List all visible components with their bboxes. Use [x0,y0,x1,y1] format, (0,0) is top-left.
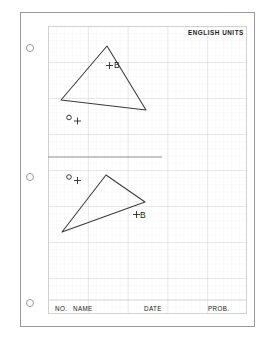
header-english-units-label: ENGLISH UNITS [188,30,244,36]
footer-field-prob: PROB. [208,306,229,312]
punch-hole-top [26,44,34,52]
worksheet-page: ENGLISH UNITS B B O O NO. NAME DATE PROB… [0,0,274,348]
punch-hole-middle [26,173,34,181]
footer-field-name: NAME [73,306,93,312]
lower-point-b-label: B [140,211,146,220]
upper-point-b-label: B [114,61,120,70]
footer-field-no: NO. [55,306,67,312]
graph-grid-area [48,26,247,314]
punch-hole-bottom [26,299,34,307]
graph-grid [48,26,247,314]
footer-field-date: DATE [144,306,162,312]
